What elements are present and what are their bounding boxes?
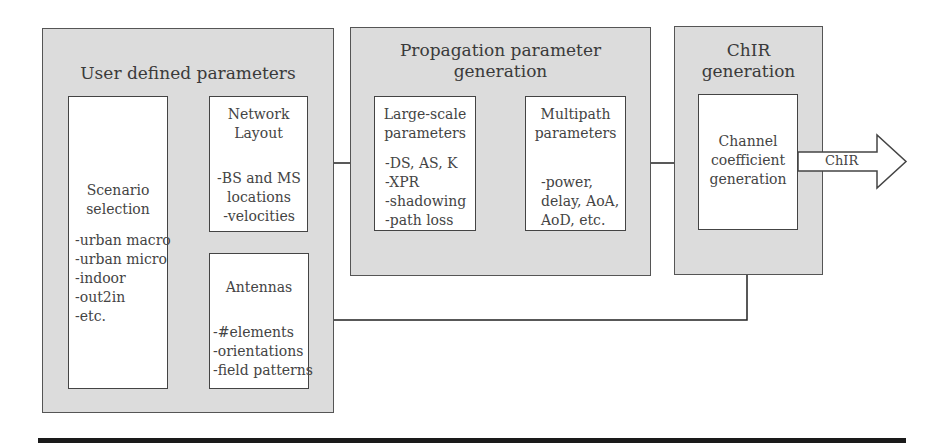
bottom-rule-divider: [38, 438, 906, 443]
chir-output-label: ChIR: [825, 153, 858, 168]
chir-output-arrow-icon: [0, 0, 944, 444]
